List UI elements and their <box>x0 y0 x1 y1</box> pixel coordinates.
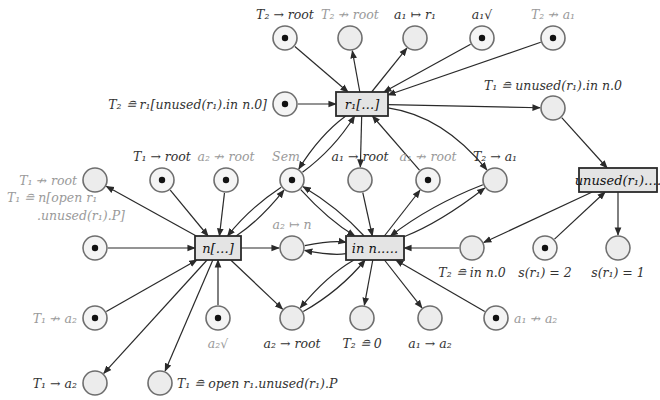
arc-p_a2_n-to-t_inn <box>305 242 346 246</box>
arc-p_a2_root-to-t_inn <box>303 260 365 312</box>
transition-label: r₁[…] <box>345 97 380 112</box>
place-circle <box>460 236 484 260</box>
place-label: T₁ ≘ open r₁.unused(r₁).P <box>177 376 338 391</box>
place-a2-nroot: a₂ ↛ root <box>198 149 256 192</box>
token-icon <box>92 315 98 321</box>
place-label: a₂√ <box>208 336 228 351</box>
place-a1-ok: a₁√ <box>470 7 494 50</box>
place-a2-root: a₂ → root <box>264 306 322 351</box>
place-label: T₂ ≘ 0 <box>342 336 381 351</box>
arc-p_T1_root-to-t_n <box>170 190 208 236</box>
arc-t_inn-to-p_T2_0 <box>364 260 372 305</box>
arc-t_n-to-p_a2_root <box>231 260 283 309</box>
place-label-line2: .unused(r₁).P] <box>37 208 125 223</box>
transition-label: in n.…. <box>352 241 398 256</box>
place-circle <box>280 306 304 330</box>
arc-t_inn-to-p_a2_root <box>300 260 354 308</box>
arc-t_unused-to-p_T2_inn <box>484 192 592 243</box>
place-label: a₂ ↛ root <box>198 149 256 164</box>
place-T2-nroot: T₂ ↛ root <box>321 7 380 50</box>
transition-label: n[…] <box>202 241 234 256</box>
place-label: a₂ → root <box>264 336 322 351</box>
arc-p_a2_nroot-to-t_n <box>219 193 224 236</box>
place-circle <box>148 371 172 395</box>
arc-t_r1-to-p_a1_r1 <box>372 48 407 92</box>
arc-t_n-to-p_T1_a2 <box>104 260 207 373</box>
place-circle <box>83 371 107 395</box>
place-a1-a2: a₁ → a₂ <box>408 306 451 351</box>
place-T1-na2: T₁ ↛ a₂ <box>33 306 107 330</box>
place-label: T₁ ↛ a₂ <box>33 311 77 326</box>
place-label: a₁ ↦ r₁ <box>394 7 436 22</box>
transition-unused: unused(r₁)…. <box>575 168 660 192</box>
place-a1-na2: a₁ ↛ a₂ <box>484 306 557 330</box>
place-circle <box>280 236 304 260</box>
place-a2-ok: a₂√ <box>206 306 230 351</box>
arc-p_T1_def-to-t_unused <box>562 118 607 168</box>
place-label: s(r₁) = 2 <box>518 265 572 280</box>
place-label: T₂ → a₁ <box>473 149 517 164</box>
place-circle <box>83 168 107 192</box>
place-label: a₁ → root <box>332 149 390 164</box>
place-circle <box>606 236 630 260</box>
arc-t_inn-to-p_sem <box>303 187 364 236</box>
place-label: Sem <box>272 149 300 164</box>
place-label: T₁ ≘ unused(r₁).in n.0 <box>484 78 622 93</box>
place-a1-root: a₁ → root <box>332 149 390 192</box>
token-icon <box>92 245 98 251</box>
transition-inn: in n.…. <box>346 236 404 260</box>
place-circle <box>483 168 507 192</box>
place-label: a₂ ↦ n <box>273 217 312 232</box>
place-a2-n: a₂ ↦ n <box>273 217 312 260</box>
place-label: a₁ → a₂ <box>408 336 451 351</box>
place-T1-nroot: T₁ ↛ root <box>19 168 107 192</box>
arc-p_a1_ok-to-t_r1 <box>384 44 471 92</box>
token-icon <box>550 35 556 41</box>
place-label: T₂ ↛ root <box>321 7 380 22</box>
place-circle <box>541 96 565 120</box>
place-label: a₁√ <box>472 7 492 22</box>
transition-n: n[…] <box>195 236 241 260</box>
petri-net-diagram: r₁[…]n[…]in n.….unused(r₁)….T₂ → rootT₂ … <box>0 0 660 400</box>
arc-t_inn-to-p_a1_nroot <box>384 190 420 236</box>
place-label: T₁ → root <box>133 149 192 164</box>
token-icon <box>215 315 221 321</box>
token-icon <box>425 177 431 183</box>
place-label: T₂ ≘ in n.0 <box>438 265 505 280</box>
place-T1-open: T₁ ≘ open r₁.unused(r₁).P <box>148 371 338 395</box>
token-icon <box>542 245 548 251</box>
place-label: T₁ → a₂ <box>33 376 77 391</box>
arc-t_r1-to-p_T1_def <box>388 105 540 108</box>
token-icon <box>159 177 165 183</box>
place-a1-r1: a₁ ↦ r₁ <box>394 7 436 50</box>
place-label: T₂ ≘ r₁[unused(r₁).in n.0] <box>108 97 267 112</box>
arc-t_inn-to-p_a2_n <box>305 250 346 254</box>
place-T1-root: T₁ → root <box>133 149 192 192</box>
transition-label: unused(r₁)…. <box>575 173 660 188</box>
place-circle <box>418 306 442 330</box>
place-label: a₁ ↛ a₂ <box>514 311 557 326</box>
token-icon <box>282 35 288 41</box>
place-T2-inn: T₂ ≘ in n.0 <box>438 236 505 280</box>
arc-p_T2_root-to-t_r1 <box>295 46 348 92</box>
nodes-layer: r₁[…]n[…]in n.….unused(r₁)….T₂ → rootT₂ … <box>7 7 660 395</box>
arc-t_inn-to-p_a1_a2 <box>384 260 422 308</box>
place-T2-0: T₂ ≘ 0 <box>342 306 381 351</box>
place-T1-n: T₁ ≘ n[open r₁.unused(r₁).P] <box>7 190 125 260</box>
place-T1-a2: T₁ → a₂ <box>33 371 107 395</box>
place-label: a₁ ↛ root <box>400 149 458 164</box>
place-T2-def: T₂ ≘ r₁[unused(r₁).in n.0] <box>108 92 297 116</box>
transition-r1: r₁[…] <box>336 92 388 116</box>
arc-p_a1_root-to-t_inn <box>363 193 373 236</box>
place-T2-root: T₂ → root <box>256 7 315 50</box>
place-label: T₂ → root <box>256 7 315 22</box>
token-icon <box>479 35 485 41</box>
token-icon <box>282 101 288 107</box>
place-T1-def: T₁ ≘ unused(r₁).in n.0 <box>484 78 622 120</box>
place-label: T₁ ≘ n[open r₁ <box>7 190 97 205</box>
place-label: T₂ ↛ a₁ <box>531 7 575 22</box>
arc-p_s2-to-t_unused <box>555 192 606 239</box>
place-circle <box>338 26 362 50</box>
token-icon <box>223 177 229 183</box>
place-label: T₁ ↛ root <box>19 173 78 188</box>
